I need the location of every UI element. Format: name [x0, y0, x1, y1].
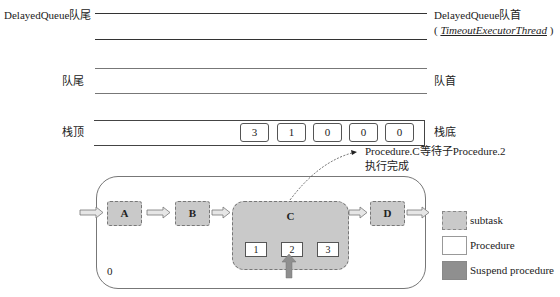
flow-arrows: [0, 0, 560, 297]
legend-label-procedure: Procedure: [470, 239, 515, 252]
suspend-arrow-icon: [282, 254, 296, 278]
legend-swatch-suspend: [442, 261, 467, 280]
legend-swatch-procedure: [442, 236, 467, 255]
annotation-curve: [290, 152, 356, 200]
annotation-arrowhead-icon: [351, 150, 357, 155]
flow-arrow-icons: [80, 207, 429, 218]
legend-swatch-subtask: [442, 211, 467, 230]
legend-label-suspend: Suspend procedure: [470, 264, 554, 277]
legend-label-subtask: subtask: [470, 214, 503, 227]
